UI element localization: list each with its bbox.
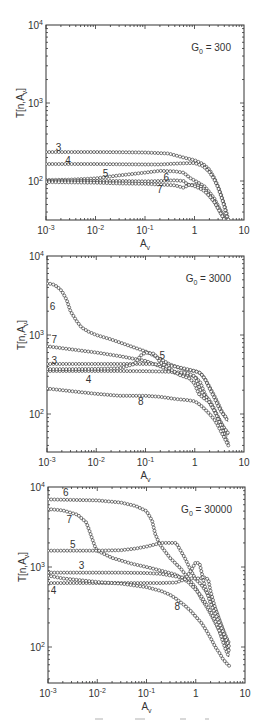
data-marker: [209, 403, 212, 406]
data-marker: [163, 396, 166, 399]
data-marker: [171, 541, 174, 544]
data-marker: [134, 163, 137, 166]
data-marker: [61, 163, 64, 166]
data-marker: [156, 163, 159, 166]
data-marker: [106, 393, 109, 396]
data-marker: [139, 571, 142, 574]
data-marker: [129, 345, 132, 348]
data-marker: [93, 151, 96, 154]
data-marker: [82, 499, 85, 502]
data-marker: [156, 180, 159, 183]
y-tick-label: 103: [29, 329, 44, 341]
data-marker: [132, 370, 135, 373]
data-marker: [119, 362, 122, 365]
data-marker: [172, 170, 175, 173]
data-marker: [154, 395, 157, 398]
data-marker: [95, 571, 98, 574]
y-tick-label-base: 10: [28, 98, 40, 109]
y-tick-label-base: 10: [28, 176, 40, 187]
y-tick-label-base: 10: [30, 562, 42, 573]
y-tick-label: 103: [28, 97, 43, 109]
g0-annotation: G0 = 30000: [181, 504, 232, 517]
data-marker: [131, 182, 134, 185]
data-marker: [69, 309, 72, 312]
data-marker: [74, 368, 77, 371]
data-marker: [100, 393, 103, 396]
y-tick-label-exp: 4: [39, 19, 43, 26]
data-marker: [185, 376, 188, 379]
data-marker: [208, 635, 211, 638]
data-marker: [144, 151, 147, 154]
data-marker: [89, 151, 92, 154]
panel-g0-30000: 10-310-210-1110102103104AvT[n,Av]G0 = 30…: [17, 481, 251, 714]
data-marker: [163, 591, 166, 594]
data-marker: [192, 162, 195, 165]
data-marker: [59, 498, 62, 501]
x-tick-label-exp: -3: [49, 456, 55, 463]
data-marker: [106, 353, 109, 356]
y-tick-label-exp: 2: [40, 408, 44, 415]
x-tick-label: 10-1: [137, 456, 154, 468]
data-marker: [84, 350, 87, 353]
data-marker: [160, 396, 163, 399]
data-marker: [110, 549, 113, 552]
data-marker: [65, 510, 68, 513]
data-marker: [110, 500, 113, 503]
data-marker: [48, 181, 51, 184]
x-tick-label-base: 10: [137, 457, 149, 468]
data-marker: [211, 641, 214, 644]
x-tick-label: 1: [193, 688, 199, 699]
data-marker: [151, 363, 154, 366]
curve-label: 4: [65, 155, 71, 166]
data-marker: [49, 368, 52, 371]
data-marker: [160, 590, 163, 593]
data-marker: [59, 582, 62, 585]
x-tick-label: 10-2: [89, 687, 106, 699]
data-marker: [129, 370, 132, 373]
data-marker: [191, 158, 194, 161]
data-marker: [148, 370, 151, 373]
data-marker: [144, 394, 147, 397]
data-marker: [85, 549, 88, 552]
data-marker: [106, 362, 109, 365]
data-marker: [142, 565, 145, 568]
data-marker: [88, 549, 91, 552]
data-marker: [120, 549, 123, 552]
data-marker: [121, 182, 124, 185]
data-marker: [186, 399, 189, 402]
data-marker: [49, 282, 52, 285]
x-tick-label: 10: [238, 225, 250, 236]
x-tick-label: 1: [192, 457, 198, 468]
data-marker: [221, 638, 224, 641]
data-marker: [213, 409, 216, 412]
data-marker: [158, 542, 161, 545]
x-axis-label: Av: [140, 238, 151, 251]
data-marker: [162, 573, 165, 576]
data-marker: [179, 179, 182, 182]
data-marker: [48, 151, 51, 154]
data-marker: [225, 639, 228, 642]
data-marker: [56, 571, 59, 574]
data-marker: [64, 151, 67, 154]
data-marker: [170, 364, 173, 367]
data-marker: [209, 600, 212, 603]
data-marker: [53, 549, 56, 552]
data-marker: [110, 581, 113, 584]
data-marker: [97, 581, 100, 584]
data-marker: [96, 181, 99, 184]
data-marker: [128, 356, 131, 359]
data-marker: [208, 609, 211, 612]
data-marker: [217, 187, 220, 190]
panel-g0-3000: 10-310-210-1110102103104AvT[n,Av]G0 = 30…: [16, 250, 250, 483]
data-marker: [78, 579, 81, 582]
data-marker: [178, 171, 181, 174]
data-marker: [97, 367, 100, 370]
data-marker: [151, 370, 154, 373]
data-marker: [108, 151, 111, 154]
faint-caption-remnant: [0, 718, 262, 724]
data-marker: [99, 335, 102, 338]
data-marker: [110, 362, 113, 365]
data-marker: [118, 182, 121, 185]
data-marker: [154, 588, 157, 591]
data-marker: [145, 370, 148, 373]
